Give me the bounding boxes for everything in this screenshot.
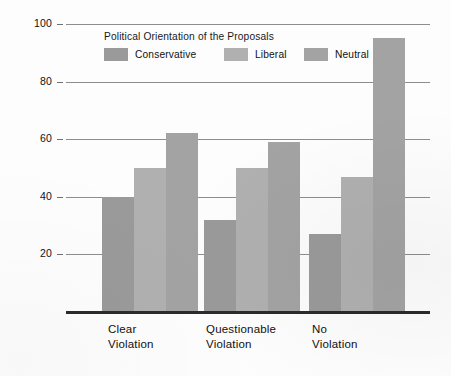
category-label-line: Clear <box>108 322 154 337</box>
legend-item-liberal[interactable]: Liberal <box>224 48 287 61</box>
category-label-line: Questionable <box>206 322 276 337</box>
y-tick-mark <box>57 24 63 25</box>
category-label-no-violation: NoViolation <box>312 322 358 352</box>
legend-items: ConservativeLiberalNeutral <box>104 48 354 62</box>
bar-neutral-clear-violation <box>166 133 198 312</box>
y-tick-label: 80 <box>18 75 52 87</box>
bar-liberal-questionable-violation <box>236 168 268 312</box>
bar-liberal-clear-violation <box>134 168 166 312</box>
y-tick-mark <box>57 82 63 83</box>
category-label-line: Violation <box>206 337 276 352</box>
plot-area <box>66 24 430 312</box>
category-label-line: Violation <box>108 337 154 352</box>
chart-figure: Percent Approved 10080604020 Political O… <box>0 0 451 376</box>
legend-item-conservative[interactable]: Conservative <box>104 48 196 61</box>
bar-conservative-no-violation <box>309 234 341 312</box>
legend-label-liberal: Liberal <box>255 49 287 60</box>
bar-liberal-no-violation <box>341 177 373 312</box>
legend: Political Orientation of the Proposals C… <box>104 31 354 62</box>
x-axis-category-labels: ClearViolationQuestionableViolationNoVio… <box>66 322 430 366</box>
category-label-line: No <box>312 322 358 337</box>
bar-neutral-questionable-violation <box>268 142 300 312</box>
y-tick-label: 60 <box>18 132 52 144</box>
bar-neutral-no-violation <box>373 38 405 312</box>
category-label-questionable-violation: QuestionableViolation <box>206 322 276 352</box>
legend-item-neutral[interactable]: Neutral <box>304 48 369 61</box>
legend-label-neutral: Neutral <box>335 49 369 60</box>
legend-swatch-neutral <box>304 48 328 61</box>
y-tick-label: 20 <box>18 247 52 259</box>
legend-label-conservative: Conservative <box>135 49 196 60</box>
y-tick-mark <box>57 254 63 255</box>
legend-title: Political Orientation of the Proposals <box>104 31 354 42</box>
y-tick-mark <box>57 197 63 198</box>
y-tick-label: 40 <box>18 190 52 202</box>
category-label-clear-violation: ClearViolation <box>108 322 154 352</box>
legend-swatch-liberal <box>224 48 248 61</box>
y-tick-mark <box>57 139 63 140</box>
y-tick-label: 100 <box>18 17 52 29</box>
category-label-line: Violation <box>312 337 358 352</box>
bar-conservative-clear-violation <box>102 197 134 312</box>
x-axis-baseline <box>66 311 430 314</box>
legend-swatch-conservative <box>104 48 128 61</box>
bar-conservative-questionable-violation <box>204 220 236 312</box>
